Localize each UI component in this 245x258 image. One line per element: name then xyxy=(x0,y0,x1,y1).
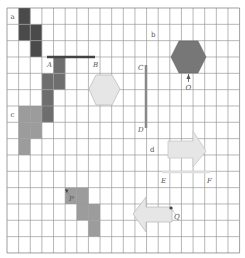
shape-a-cell xyxy=(19,8,31,24)
label-P: P xyxy=(68,195,74,203)
label-c: c xyxy=(11,111,15,119)
shape-P-cell xyxy=(88,204,100,220)
grid-diagram: a b c d A B C D E F O P Q xyxy=(0,0,245,258)
arrowhead-icon xyxy=(187,74,191,79)
shape-a-cell xyxy=(19,24,31,40)
right-arrow-shape xyxy=(168,131,206,167)
left-arrow-shape xyxy=(133,197,172,232)
grid-lines xyxy=(7,8,240,253)
label-E: E xyxy=(160,177,166,185)
shape-c-cell xyxy=(30,122,42,138)
shape-P-cell xyxy=(88,220,100,236)
label-d: d xyxy=(150,146,155,154)
label-Q: Q xyxy=(174,213,180,221)
label-a: a xyxy=(11,13,15,21)
shape-c-cell xyxy=(19,139,31,155)
shape-A-cell xyxy=(42,106,54,122)
shape-A-cell xyxy=(54,57,66,73)
label-A: A xyxy=(46,61,52,69)
label-C: C xyxy=(138,64,144,72)
pale-hexagon xyxy=(89,75,120,105)
shape-A-cell xyxy=(42,73,54,89)
shape-c-cell xyxy=(30,106,42,122)
label-F: F xyxy=(206,177,213,185)
label-D: D xyxy=(137,126,144,134)
shape-a-cell xyxy=(30,24,42,40)
label-O: O xyxy=(186,84,192,92)
label-b: b xyxy=(151,31,156,39)
shape-P-cell xyxy=(77,204,89,220)
shape-A-cell xyxy=(54,73,66,89)
shape-P-cell xyxy=(77,188,89,204)
dark-hexagon xyxy=(171,41,206,73)
label-B: B xyxy=(92,61,98,69)
shape-c-cell xyxy=(19,122,31,138)
shape-A-cell xyxy=(42,90,54,106)
shape-a-cell xyxy=(30,41,42,57)
shape-c-cell xyxy=(19,106,31,122)
